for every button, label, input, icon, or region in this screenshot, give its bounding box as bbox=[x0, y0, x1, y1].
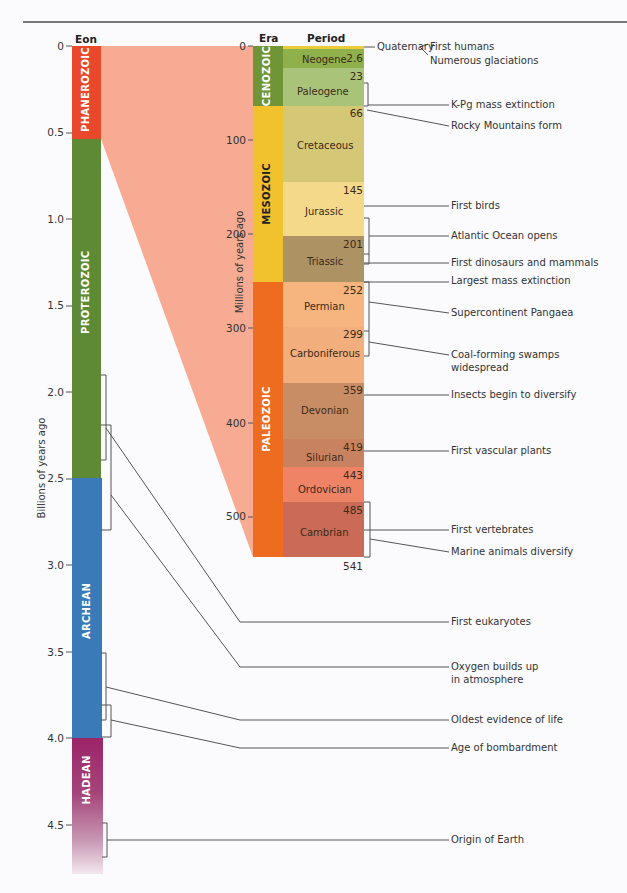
event-origin-earth: Origin of Earth bbox=[451, 834, 524, 846]
event-coal-swamps-line2: widespread bbox=[451, 362, 509, 374]
event-first-vertebrates: First vertebrates bbox=[451, 524, 533, 536]
event-glaciations: Numerous glaciations bbox=[430, 55, 538, 67]
event-marine-animals: Marine animals diversify bbox=[451, 546, 573, 558]
event-largest-extinction: Largest mass extinction bbox=[451, 275, 571, 287]
event-vascular-plants: First vascular plants bbox=[451, 445, 551, 457]
period-name-quaternary: Quaternary bbox=[377, 41, 434, 53]
event-first-eukaryotes: First eukaryotes bbox=[451, 616, 531, 628]
event-insects: Insects begin to diversify bbox=[451, 389, 576, 401]
event-pangaea: Supercontinent Pangaea bbox=[451, 307, 573, 319]
event-kpg-extinction: K-Pg mass extinction bbox=[451, 99, 555, 111]
event-first-dinosaurs: First dinosaurs and mammals bbox=[451, 257, 598, 269]
event-rocky-mountains: Rocky Mountains form bbox=[451, 120, 562, 132]
event-oxygen-line1: Oxygen builds up bbox=[451, 661, 538, 673]
event-first-birds: First birds bbox=[451, 200, 500, 212]
event-atlantic-opens: Atlantic Ocean opens bbox=[451, 230, 558, 242]
event-oxygen-line2: in atmosphere bbox=[451, 674, 523, 686]
event-first-humans: First humans bbox=[430, 41, 494, 53]
event-oldest-life: Oldest evidence of life bbox=[451, 714, 563, 726]
event-coal-swamps-line1: Coal-forming swamps bbox=[451, 349, 559, 361]
event-bombardment: Age of bombardment bbox=[451, 742, 557, 754]
